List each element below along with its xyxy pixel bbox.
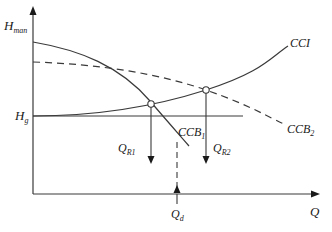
y-axis-arrow-icon xyxy=(30,6,37,15)
cci-curve xyxy=(33,46,288,116)
qr2-label: QR2 xyxy=(213,141,231,157)
pump-curve-diagram: Hman Q Hg CCI CCB1 CCB2 QR1 QR2 Qd xyxy=(0,0,332,232)
ccb1-label: CCB1 xyxy=(178,125,205,141)
y-axis xyxy=(30,6,37,194)
qd-label: Qd xyxy=(171,207,185,223)
cci-label: CCI xyxy=(290,36,311,50)
qr1-arrow-icon xyxy=(148,156,155,164)
operating-point-2 xyxy=(203,87,209,93)
x-axis-label: Q xyxy=(310,204,320,219)
ccb2-label: CCB2 xyxy=(287,122,314,138)
x-axis-arrow-icon xyxy=(311,191,320,198)
ccb1-curve xyxy=(33,42,189,146)
qr2-arrow-icon xyxy=(203,156,210,164)
static-head-label: Hg xyxy=(14,108,28,125)
y-axis-label: Hman xyxy=(3,18,27,35)
qd-arrow-icon xyxy=(174,185,181,193)
qr1-label: QR1 xyxy=(118,141,136,157)
operating-point-1 xyxy=(148,101,154,107)
